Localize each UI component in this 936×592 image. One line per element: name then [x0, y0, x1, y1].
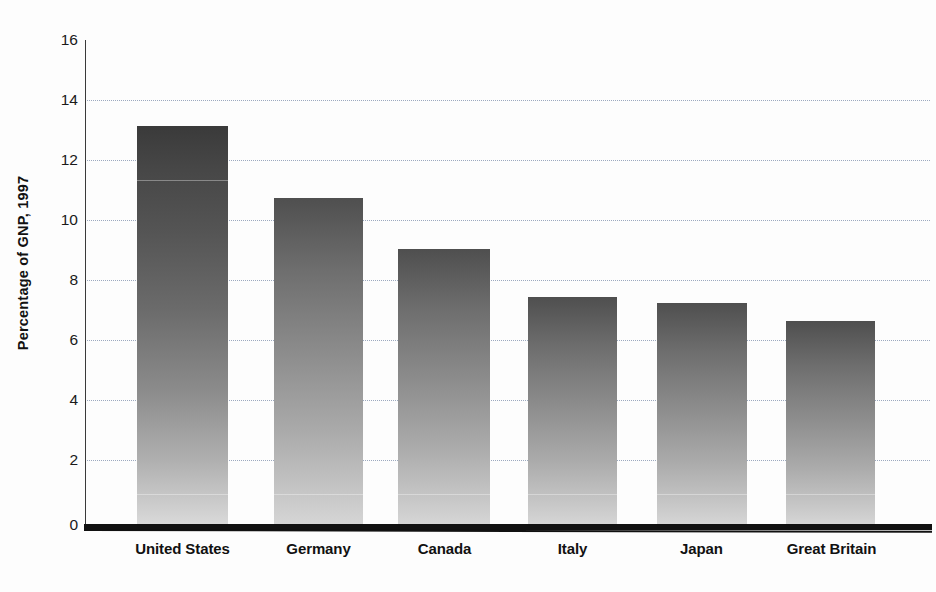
x-axis-line — [84, 524, 932, 530]
x-label-canada: Canada — [374, 540, 515, 557]
bar-segment-line — [398, 494, 490, 495]
bar-united-states[interactable] — [137, 126, 228, 525]
x-label-japan: Japan — [631, 540, 772, 557]
bar-segment-line — [786, 494, 875, 495]
bars-layer — [0, 0, 936, 592]
x-label-united-states: United States — [112, 540, 253, 557]
bar-canada[interactable] — [398, 249, 490, 525]
x-label-great-britain: Great Britain — [759, 540, 904, 557]
bar-germany[interactable] — [274, 198, 363, 525]
bar-segment-line — [137, 180, 228, 181]
bar-segment-line — [528, 494, 617, 495]
bar-great-britain[interactable] — [786, 321, 875, 525]
x-axis-category-labels: United States Germany Canada Italy Japan… — [0, 540, 936, 570]
bar-segment-line — [274, 494, 363, 495]
bar-japan[interactable] — [657, 303, 747, 525]
x-label-germany: Germany — [248, 540, 389, 557]
bar-segment-line — [137, 494, 228, 495]
bar-segment-line — [657, 494, 747, 495]
bar-italy[interactable] — [528, 297, 617, 525]
x-label-italy: Italy — [502, 540, 643, 557]
bar-chart: Percentage of GNP, 1997 16 14 12 10 8 6 … — [0, 0, 936, 592]
